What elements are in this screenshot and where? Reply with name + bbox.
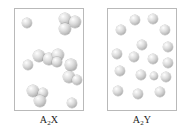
- particle-sphere: [59, 23, 71, 35]
- particle-sphere: [23, 60, 33, 70]
- particle-sphere: [52, 57, 61, 66]
- particle-sphere: [163, 58, 173, 68]
- caption-subscript-a2y: 2: [140, 119, 144, 127]
- particle-sphere: [34, 95, 46, 107]
- particle-sphere: [72, 75, 82, 85]
- caption-element-a2x: X: [51, 114, 58, 125]
- particle-sphere: [113, 86, 123, 96]
- particle-sphere: [148, 14, 158, 24]
- particle-sphere: [115, 66, 125, 76]
- particle-sphere: [137, 40, 148, 51]
- panel-a2y-caption: A2Y: [107, 114, 177, 125]
- caption-subscript-a2x: 2: [47, 119, 51, 127]
- particle-sphere: [148, 54, 158, 64]
- caption-element-a2y: Y: [144, 114, 151, 125]
- particle-sphere: [155, 87, 165, 97]
- panel-a2x-box: [14, 8, 84, 111]
- particle-sphere: [133, 89, 143, 99]
- particle-sphere: [136, 70, 146, 80]
- particle-sphere: [116, 25, 126, 35]
- particle-diagram-figure: A2X A2Y: [0, 0, 191, 137]
- particle-sphere: [22, 18, 32, 28]
- particle-sphere: [130, 15, 140, 25]
- particle-sphere: [67, 98, 77, 108]
- panel-a2y-box: [107, 8, 177, 111]
- particle-sphere: [129, 52, 140, 63]
- particle-sphere: [163, 42, 173, 52]
- particle-sphere: [112, 49, 122, 59]
- panel-a2x-caption: A2X: [14, 114, 84, 125]
- particle-sphere: [150, 72, 159, 81]
- particle-sphere: [65, 59, 76, 70]
- particle-sphere: [160, 25, 170, 35]
- particle-sphere: [161, 72, 171, 82]
